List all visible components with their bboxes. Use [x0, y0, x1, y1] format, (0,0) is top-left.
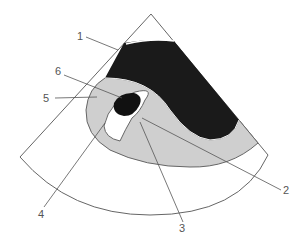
- label-6: 6: [55, 65, 61, 77]
- label-1: 1: [77, 30, 83, 42]
- label-3: 3: [179, 222, 185, 234]
- ultrasound-diagram: 1 2 3 4 5 6: [0, 0, 303, 243]
- label-2: 2: [283, 184, 289, 196]
- label-4: 4: [38, 208, 44, 220]
- label-5: 5: [43, 92, 49, 104]
